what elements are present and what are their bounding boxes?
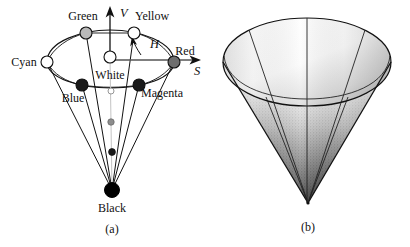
label-magenta: Magenta bbox=[141, 86, 184, 100]
cone-apex bbox=[306, 201, 309, 204]
label-white: White bbox=[95, 68, 124, 82]
vertex-black-marker bbox=[105, 183, 120, 198]
axis-v bbox=[106, 6, 115, 57]
label-cyan: Cyan bbox=[11, 55, 36, 69]
label-axis-v: V bbox=[120, 6, 129, 20]
panel-b-svg: (b) bbox=[205, 0, 410, 247]
label-red: Red bbox=[175, 44, 194, 58]
vertex-cyan-marker bbox=[41, 56, 53, 68]
label-blue: Blue bbox=[62, 91, 85, 105]
caption-b: (b) bbox=[301, 220, 315, 234]
vertex-yellow-marker bbox=[128, 27, 140, 39]
slant-magenta-apex bbox=[112, 85, 139, 190]
figure-hsv-cone: Green Yellow Cyan Red Blue Magenta White… bbox=[0, 0, 410, 247]
gray-dot-3 bbox=[109, 149, 116, 156]
panel-a-hexcone: Green Yellow Cyan Red Blue Magenta White… bbox=[0, 0, 205, 247]
label-green: Green bbox=[68, 9, 97, 23]
vertex-green-marker bbox=[80, 27, 92, 39]
gray-dot-1 bbox=[108, 88, 114, 94]
label-yellow: Yellow bbox=[135, 9, 169, 23]
label-axis-h: H bbox=[149, 37, 160, 51]
panel-a-svg: Green Yellow Cyan Red Blue Magenta White… bbox=[0, 0, 205, 247]
caption-a: (a) bbox=[105, 222, 118, 236]
label-axis-s: S bbox=[194, 64, 201, 78]
gray-dot-2 bbox=[108, 119, 114, 125]
vertex-blue-marker bbox=[76, 79, 88, 91]
panel-b-shaded-cone: (b) bbox=[205, 0, 410, 247]
vertex-white-marker bbox=[104, 51, 116, 63]
label-black: Black bbox=[98, 201, 126, 215]
